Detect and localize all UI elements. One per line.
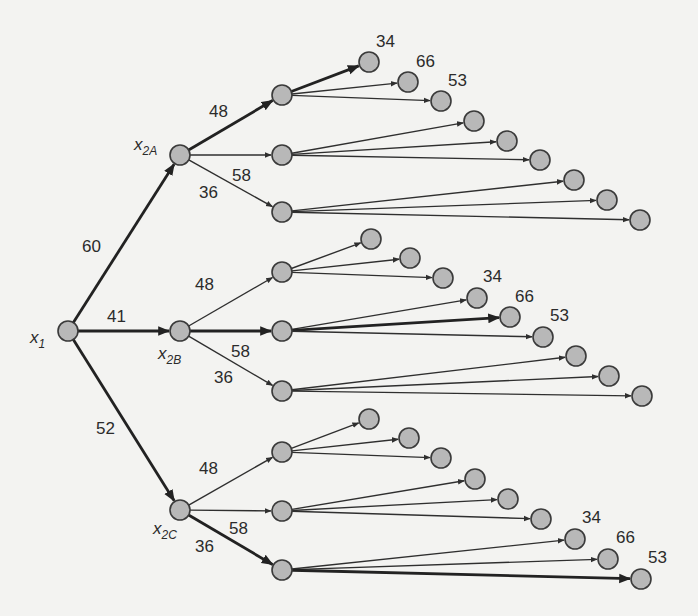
leaf-node (597, 190, 617, 210)
edge-leaf-2-1-1 (292, 500, 497, 511)
stage3-node (272, 85, 292, 105)
edge-x2a-s3-0 (189, 101, 273, 150)
edge-label-x2c-58: 58 (229, 519, 248, 538)
edge-label-x2c-36: 36 (195, 537, 214, 556)
leaf-label-b-34: 34 (483, 267, 502, 286)
edge-leaf-1-0-1 (292, 259, 399, 271)
leaf-node (399, 428, 419, 448)
leaf-label-b-66: 66 (515, 287, 534, 306)
edge-leaf-0-0-2 (292, 95, 430, 100)
leaf-node (400, 248, 420, 268)
leaf-label-c-53: 53 (648, 548, 667, 567)
x2a-label: x2A (133, 135, 157, 158)
edge-leaf-2-0-2 (292, 452, 430, 457)
edge-leaf-2-1-0 (292, 481, 464, 510)
leaf-label-a-53: 53 (448, 71, 467, 90)
stage3-node (272, 262, 292, 282)
stage3-node (272, 321, 292, 341)
edge-label-x1-x2a: 60 (82, 237, 101, 256)
node-x2c (170, 500, 190, 520)
edge-leaf-2-1-2 (292, 511, 530, 518)
edge-leaf-1-0-2 (292, 272, 432, 277)
leaf-node (465, 469, 485, 489)
edge-label-x1-x2c: 52 (96, 419, 115, 438)
leaf-node (398, 72, 418, 92)
leaf-node (533, 327, 553, 347)
edge-label-x2b-58: 58 (231, 342, 250, 361)
leaf-node (599, 366, 619, 386)
edge-label-x2b-48: 48 (195, 275, 214, 294)
leaf-node (464, 111, 484, 131)
labels: x1 x2A x2B x2C 60 41 52 48 58 36 48 58 3… (29, 32, 667, 567)
leaf-node (500, 307, 520, 327)
leaf-label-c-66: 66 (616, 528, 635, 547)
node-x2a (170, 145, 190, 165)
leaf-label-b-53: 53 (550, 306, 569, 325)
leaf-node (467, 288, 487, 308)
leaf-node (564, 170, 584, 190)
edge-leaf-2-2-2 (292, 570, 630, 578)
stage3-node (272, 202, 292, 222)
edge-leaf-1-1-2 (292, 331, 532, 337)
root-label: x1 (29, 328, 45, 351)
stage3-node (272, 442, 292, 462)
edge-label-x2a-36: 36 (199, 183, 218, 202)
x2b-label: x2B (157, 344, 181, 367)
stage3-node (272, 560, 292, 580)
edge-x1-x2c (73, 339, 174, 500)
node-x2b (170, 321, 190, 341)
leaf-label-a-34: 34 (376, 32, 395, 51)
leaf-node (531, 509, 551, 529)
edge-leaf-2-0-1 (292, 439, 398, 451)
leaf-node (361, 229, 381, 249)
leaf-node (359, 52, 379, 72)
leaf-node (598, 549, 618, 569)
x2c-label: x2C (152, 519, 177, 542)
stage3-node (272, 381, 292, 401)
stage3-node (272, 501, 292, 521)
leaf-node (632, 386, 652, 406)
edge-leaf-1-2-1 (292, 377, 598, 391)
leaf-node (431, 91, 451, 111)
stage3-node (272, 145, 292, 165)
leaf-node (359, 409, 379, 429)
leaf-node (630, 210, 650, 230)
leaf-label-c-34: 34 (582, 508, 601, 527)
leaf-label-a-66: 66 (416, 52, 435, 71)
leaf-node (433, 268, 453, 288)
edge-label-x2a-58: 58 (232, 166, 251, 185)
edge-leaf-1-2-2 (292, 391, 631, 396)
edge-leaf-0-1-2 (292, 155, 529, 160)
leaf-node (566, 346, 586, 366)
leaf-node (431, 448, 451, 468)
edge-leaf-0-2-2 (292, 212, 629, 220)
leaf-node (530, 150, 550, 170)
edge-label-x2a-48: 48 (209, 102, 228, 121)
decision-tree-diagram: x1 x2A x2B x2C 60 41 52 48 58 36 48 58 3… (0, 0, 698, 616)
node-x1 (58, 321, 78, 341)
edge-label-x2b-36: 36 (214, 368, 233, 387)
leaf-node (497, 131, 517, 151)
edge-label-x2c-48: 48 (199, 459, 218, 478)
edges (73, 66, 631, 579)
leaf-node (565, 529, 585, 549)
leaf-node (631, 569, 651, 589)
edge-x2c-s3-1 (190, 510, 271, 511)
edge-label-x1-x2b: 41 (107, 307, 126, 326)
leaf-node (498, 489, 518, 509)
